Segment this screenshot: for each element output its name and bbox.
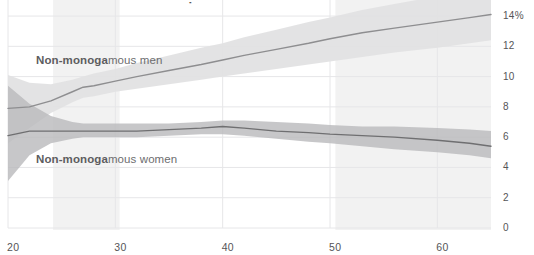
series-label-men: Non-monogamous men <box>36 54 162 66</box>
shaded-x-band-0 <box>53 0 120 230</box>
x-tick-20: 20 <box>7 242 19 253</box>
y-tick-8: 8 <box>503 102 509 112</box>
x-tick-40: 40 <box>222 242 234 253</box>
y-tick-14: 14% <box>503 11 524 21</box>
x-tick-50: 50 <box>329 242 341 253</box>
y-tick-2: 2 <box>503 193 509 203</box>
y-tick-10: 10 <box>503 72 515 82</box>
chart-plot-area <box>0 0 534 255</box>
x-tick-30: 30 <box>114 242 126 253</box>
y-tick-0: 0 <box>503 223 509 233</box>
y-tick-4: 4 <box>503 162 509 172</box>
y-tick-12: 12 <box>503 41 515 51</box>
x-tick-60: 60 <box>436 242 448 253</box>
chart-root: Non-monogamy is more common among men as… <box>0 0 534 255</box>
series-label-women: Non-monogamous women <box>36 153 177 165</box>
y-tick-6: 6 <box>503 132 509 142</box>
